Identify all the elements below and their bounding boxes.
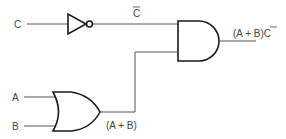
not-gate-bubble-icon <box>87 21 93 27</box>
input-a-label: A <box>12 92 19 103</box>
not-gate-triangle-icon <box>68 14 86 34</box>
and-output-prefix: (A + B) <box>233 28 264 39</box>
not-gate <box>68 14 93 34</box>
not-output-label-text: C <box>133 8 140 19</box>
and-gate <box>178 21 219 61</box>
input-c-label: C <box>14 19 21 30</box>
or-output-label: (A + B) <box>106 120 137 131</box>
and-output-label: (A + B)C <box>233 27 277 39</box>
logic-circuit-diagram: C C (A + B)C A B (A + B) <box>0 0 286 139</box>
wire-or-to-and <box>100 52 178 112</box>
not-output-label: C <box>133 7 140 19</box>
input-b-label: B <box>12 121 19 132</box>
and-output-suffix: C <box>264 28 271 39</box>
and-output-label-text: (A + B)C <box>233 28 271 39</box>
or-gate <box>53 92 100 131</box>
